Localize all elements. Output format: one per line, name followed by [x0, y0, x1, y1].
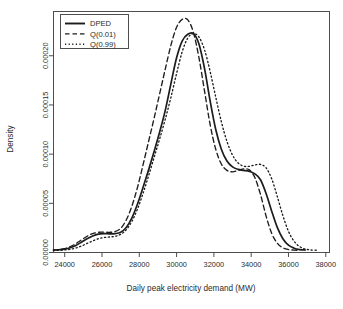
- y-axis-title: Density: [6, 124, 15, 152]
- x-tick-label: 30000: [166, 260, 187, 269]
- x-tick-label: 36000: [278, 260, 299, 269]
- density-curves: [54, 18, 317, 250]
- density-curve-q-0-99: [54, 34, 317, 251]
- y-tick-label: 0.00010: [41, 141, 50, 168]
- x-tick-label: 26000: [92, 260, 113, 269]
- chart-canvas: 2400026000280003000032000340003600038000…: [0, 0, 343, 309]
- y-axis-ticks: 0.000000.000050.000100.000150.00020: [41, 42, 54, 265]
- legend-label: Q(0.99): [90, 40, 116, 49]
- y-tick-label: 0.00005: [41, 190, 50, 217]
- legend-label: DPED: [90, 19, 112, 28]
- x-tick-label: 34000: [241, 260, 262, 269]
- x-tick-label: 38000: [315, 260, 336, 269]
- x-tick-label: 28000: [129, 260, 150, 269]
- y-tick-label: 0.00020: [41, 42, 50, 69]
- y-tick-label: 0.00015: [41, 92, 50, 119]
- density-curve-dped: [54, 33, 306, 250]
- y-tick-label: 0.00000: [41, 239, 50, 266]
- x-axis-title: Daily peak electricity demand (MW): [127, 284, 256, 293]
- chart-legend: DPEDQ(0.01)Q(0.99): [61, 15, 129, 50]
- x-tick-label: 32000: [204, 260, 225, 269]
- density-plot-figure: 2400026000280003000032000340003600038000…: [0, 0, 343, 309]
- x-axis-ticks: 2400026000280003000032000340003600038000: [54, 253, 336, 270]
- x-tick-label: 24000: [54, 260, 75, 269]
- legend-label: Q(0.01): [90, 30, 116, 39]
- density-curve-q-0-01: [54, 18, 300, 250]
